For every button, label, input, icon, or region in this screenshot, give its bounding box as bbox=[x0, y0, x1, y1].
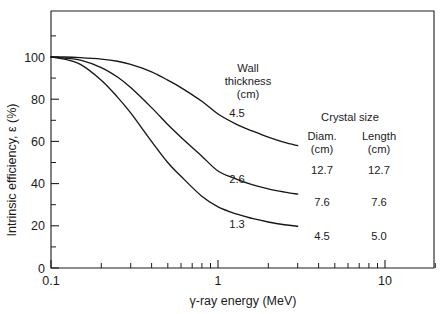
y-axis-title: Intrinsic efficiency, ε (%) bbox=[5, 104, 19, 237]
x-axis-title: γ-ray energy (MeV) bbox=[190, 294, 297, 308]
legend-col-length-unit: (cm) bbox=[368, 143, 391, 155]
curve-label-2-6: 2.6 bbox=[229, 173, 245, 185]
efficiency-vs-energy-chart: 0 20 40 60 80 100 Intrinsic efficiency, … bbox=[0, 0, 440, 314]
curve-label-1-3: 1.3 bbox=[229, 218, 245, 230]
legend-title: Crystal size bbox=[321, 111, 379, 123]
x-tick-label: 0.1 bbox=[42, 274, 59, 288]
legend-col-length-header: Length bbox=[362, 130, 396, 142]
legend-row-diam: 7.6 bbox=[314, 196, 330, 208]
legend-row-diam: 4.5 bbox=[314, 230, 330, 242]
x-tick-label: 1 bbox=[215, 274, 222, 288]
legend-col-diam-unit: (cm) bbox=[311, 143, 334, 155]
chart-figure: 0 20 40 60 80 100 Intrinsic efficiency, … bbox=[0, 0, 440, 314]
y-tick-label: 80 bbox=[31, 93, 45, 107]
y-tick-label: 100 bbox=[24, 51, 45, 65]
chart-background bbox=[0, 0, 440, 314]
legend-row-length: 5.0 bbox=[371, 230, 387, 242]
wall-heading-line2: thickness bbox=[225, 75, 272, 87]
wall-heading-line3: (cm) bbox=[237, 88, 260, 100]
legend-col-diam-header: Diam. bbox=[307, 130, 336, 142]
legend-row-diam: 12.7 bbox=[311, 164, 333, 176]
y-tick-label: 20 bbox=[31, 219, 45, 233]
legend-row-length: 12.7 bbox=[368, 164, 390, 176]
y-tick-label: 60 bbox=[31, 135, 45, 149]
legend-row-length: 7.6 bbox=[371, 196, 387, 208]
y-tick-label: 40 bbox=[31, 177, 45, 191]
x-tick-label: 10 bbox=[378, 274, 392, 288]
curve-label-4-5: 4.5 bbox=[229, 107, 245, 119]
wall-heading-line1: Wall bbox=[237, 62, 258, 74]
